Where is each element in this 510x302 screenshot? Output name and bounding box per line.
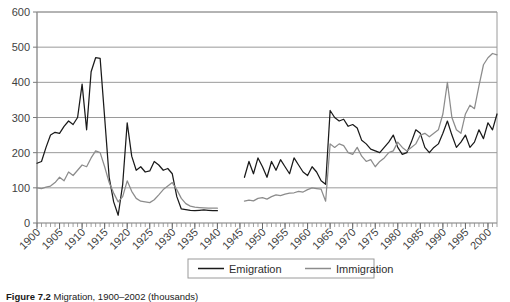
migration-line-chart: 0100200300400500600190019051910191519201…: [0, 0, 510, 290]
x-tick-label-2000: 2000: [468, 226, 494, 252]
x-tick-label-1915: 1915: [84, 226, 110, 252]
y-tick-label-0: 0: [24, 217, 30, 229]
x-tick-label-1935: 1935: [174, 226, 200, 252]
x-tick-label-1965: 1965: [310, 226, 336, 252]
x-tick-label-1950: 1950: [242, 226, 268, 252]
series-line-immigration-seg0: [37, 151, 217, 208]
x-tick-label-1930: 1930: [152, 226, 178, 252]
y-tick-label-100: 100: [12, 182, 30, 194]
x-tick-label-1955: 1955: [265, 226, 291, 252]
x-tick-label-1925: 1925: [129, 226, 155, 252]
x-tick-label-1905: 1905: [39, 226, 65, 252]
x-tick-label-1975: 1975: [355, 226, 381, 252]
y-tick-label-200: 200: [12, 147, 30, 159]
x-tick-label-1985: 1985: [400, 226, 426, 252]
x-tick-label-1990: 1990: [422, 226, 448, 252]
y-tick-label-600: 600: [12, 6, 30, 18]
x-tick-label-1900: 1900: [17, 226, 43, 252]
x-tick-label-1910: 1910: [62, 226, 88, 252]
x-tick-label-1970: 1970: [332, 226, 358, 252]
x-tick-label-1995: 1995: [445, 226, 471, 252]
y-tick-label-300: 300: [12, 112, 30, 124]
series-line-emigration-seg1: [244, 110, 497, 184]
figure-caption-text: Migration, 1900–2002 (thousands): [54, 291, 199, 302]
y-tick-label-500: 500: [12, 41, 30, 53]
figure-caption-label: Figure 7.2: [6, 291, 51, 302]
figure-caption: Figure 7.2 Migration, 1900–2002 (thousan…: [6, 291, 506, 302]
x-tick-label-1980: 1980: [377, 226, 403, 252]
y-tick-label-400: 400: [12, 76, 30, 88]
series-line-immigration-seg1: [244, 54, 497, 202]
legend-label-immigration: Immigration: [336, 263, 393, 275]
legend-label-emigration: Emigration: [229, 263, 282, 275]
x-tick-label-1945: 1945: [220, 226, 246, 252]
x-tick-label-1940: 1940: [197, 226, 223, 252]
x-tick-label-1960: 1960: [287, 226, 313, 252]
x-tick-label-1920: 1920: [107, 226, 133, 252]
series-line-emigration-seg0: [37, 58, 217, 216]
